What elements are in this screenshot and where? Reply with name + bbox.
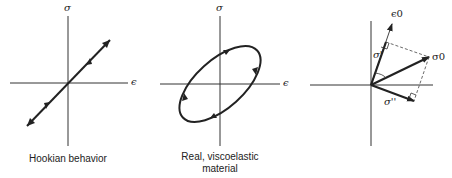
hookian-panel [10,16,128,146]
sigma0-label: σ0 [432,51,445,62]
viscoelastic-caption-line1: Real, viscoelastic [170,151,270,163]
sigma-prime-label: σ' [373,49,383,60]
sigma-double-prime-label: σ'' [384,96,396,107]
sigma-axis-label: σ [216,2,223,13]
epsilon-axis-label: ϵ [283,77,289,88]
hookian-caption: Hookian behavior [18,153,118,165]
viscoelastic-caption-line2: material [170,163,270,175]
viscoelastic-panel [160,16,280,146]
vector-panel [310,21,433,146]
right-angle-mark-bottom [409,93,416,99]
phase-angle-arc [375,73,386,78]
sigma-axis-label: σ [64,2,71,13]
epsilon0-label: ϵ0 [391,8,403,19]
dashed-projection-top [386,42,429,57]
epsilon-axis-label: ϵ [131,76,137,87]
